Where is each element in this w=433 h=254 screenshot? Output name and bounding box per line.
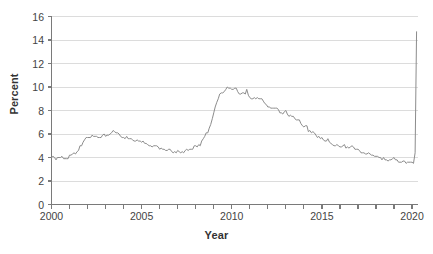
unemployment-rate-chart: Percent Year 0246810121416 2000200520102… [0, 0, 433, 254]
plot-area [0, 0, 433, 254]
series-line-unemployment-rate [52, 32, 417, 164]
x-tick-marks [52, 205, 413, 209]
gridlines [52, 17, 419, 182]
